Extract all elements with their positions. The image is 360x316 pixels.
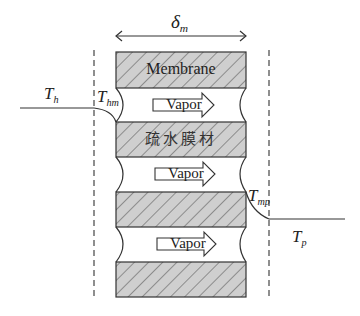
permeate-membrane-temp-label: Tmp <box>248 187 270 207</box>
membrane-block-3 <box>116 192 246 227</box>
vapor-label-1: Vapor <box>166 97 206 112</box>
hot-membrane-temp-label: Thm <box>97 88 119 108</box>
hot-bulk-temp-label: Th <box>44 85 59 105</box>
thickness-label: δm <box>171 12 188 34</box>
pore-menisci-right <box>240 88 246 262</box>
pore-menisci-left <box>116 88 123 262</box>
membrane-label: Membrane <box>116 61 246 77</box>
membrane-block-4 <box>116 262 246 297</box>
permeate-bulk-temp-label: Tp <box>292 228 307 248</box>
membrane-distillation-diagram <box>0 0 360 316</box>
vapor-label-2: Vapor <box>168 166 208 181</box>
vapor-label-3: Vapor <box>170 236 210 251</box>
material-label: 疏水膜材 <box>116 132 246 147</box>
